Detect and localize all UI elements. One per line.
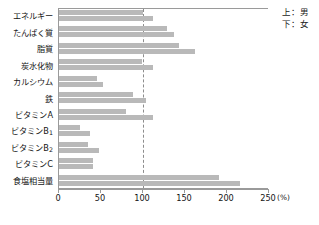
bar-row [59,9,268,25]
bar-row [59,42,268,58]
bar-male [59,142,88,147]
bar-female [59,49,195,54]
bar-female [59,115,153,120]
bar-female [59,32,174,37]
bar-row [59,141,268,157]
y-axis-label: 脂質 [37,45,53,53]
bar-row [59,25,268,41]
bar-female [59,148,99,153]
x-axis-line [58,189,268,190]
bar-row [59,58,268,74]
y-axis-label: 鉄 [45,94,53,102]
legend-item-female: 下：女 [282,18,309,30]
legend-item-male: 上：男 [282,6,309,18]
y-axis-label: 炭水化物 [21,61,53,69]
bar-male [59,43,179,48]
y-axis-label: ビタミンB1 [11,127,53,135]
bar-female [59,65,153,70]
y-axis-label: 食塩相当量 [13,177,53,185]
bar-row [59,75,268,91]
y-axis-label: たんぱく質 [13,29,53,37]
bar-row [59,157,268,173]
x-tick-label: 200 [218,194,234,202]
x-tick-label: 100 [134,194,150,202]
bar-male [59,158,93,163]
bar-male [59,175,219,180]
plot-area [58,8,268,189]
bar-female [59,181,240,186]
bar-male [59,109,126,114]
bar-female [59,164,93,169]
x-axis-unit: (%) [277,194,290,201]
bar-row [59,91,268,107]
chart-legend: 上：男 下：女 [282,6,309,31]
bar-male [59,92,133,97]
y-axis-label: ビタミンB2 [11,144,53,152]
y-axis-label: ビタミンA [15,111,53,119]
bar-male [59,125,80,130]
bar-male [59,76,97,81]
chart-root: 上：男 下：女 エネルギーたんぱく質脂質炭水化物カルシウム鉄ビタミンAビタミンB… [0,0,319,225]
x-tick-label: 0 [55,194,60,202]
bar-male [59,59,142,64]
bar-male [59,26,167,31]
x-tick-label: 250 [260,194,276,202]
x-tick-label: 50 [95,194,105,202]
y-axis-label: カルシウム [13,78,53,86]
bar-female [59,16,153,21]
x-tick-label: 150 [176,194,192,202]
y-axis-labels: エネルギーたんぱく質脂質炭水化物カルシウム鉄ビタミンAビタミンB1ビタミンB2ビ… [0,8,56,189]
y-axis-label: ビタミンC [15,160,53,168]
bar-row [59,108,268,124]
bar-row [59,174,268,190]
y-axis-label: エネルギー [13,12,53,20]
bar-male [59,10,143,15]
bar-rows [59,9,268,188]
bar-female [59,98,146,103]
bar-row [59,124,268,140]
bar-female [59,131,90,136]
bar-female [59,82,103,87]
